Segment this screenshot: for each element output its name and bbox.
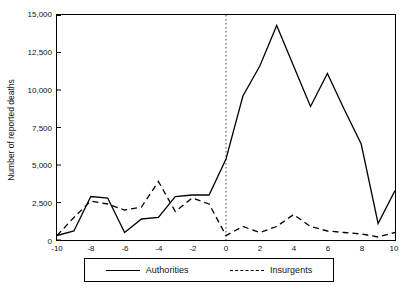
plot-svg [57, 15, 395, 240]
x-tick-1: -8 [87, 244, 94, 253]
legend-item-authorities: Authorities [106, 265, 189, 275]
y-tick-3: 7,500 [32, 123, 52, 132]
x-tick-2: -6 [121, 244, 128, 253]
y-tick-5: 12,500 [28, 47, 52, 56]
y-tick-1: 2,500 [32, 199, 52, 208]
y-tick-6: 15,000 [28, 10, 52, 19]
legend-label-authorities: Authorities [146, 265, 189, 275]
legend-dashed-line-icon [230, 270, 264, 271]
series-insurgents-line [57, 182, 395, 238]
y-axis-ticks: 0 2,500 5,000 7,500 10,000 12,500 15,000 [0, 0, 52, 294]
x-tick-5: 0 [224, 244, 228, 253]
x-tick-6: 2 [258, 244, 262, 253]
x-tick-9: 8 [360, 244, 364, 253]
x-tick-10: 10 [390, 244, 399, 253]
legend-label-insurgents: Insurgents [270, 265, 312, 275]
plot-area [56, 14, 396, 241]
x-tick-3: -4 [155, 244, 162, 253]
x-tick-4: -2 [189, 244, 196, 253]
chart-container: Number of reported deaths 0 2,500 5,000 … [0, 0, 415, 294]
x-tick-0: -10 [51, 244, 63, 253]
x-tick-8: 6 [326, 244, 330, 253]
axis-tick-marks [57, 16, 61, 241]
chart-legend: Authorities Insurgents [84, 258, 334, 282]
y-tick-2: 5,000 [32, 161, 52, 170]
legend-solid-line-icon [106, 270, 140, 271]
y-tick-4: 10,000 [28, 85, 52, 94]
legend-item-insurgents: Insurgents [230, 265, 312, 275]
x-tick-7: 4 [292, 244, 296, 253]
